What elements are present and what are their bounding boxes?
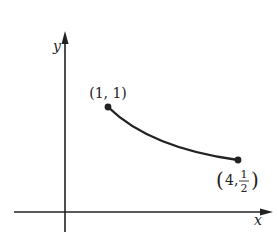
point-end-frac-den: 2 xyxy=(241,182,248,195)
point-end-x-value: 4, xyxy=(225,172,238,188)
point-end-open-paren: ( xyxy=(216,168,224,192)
point-end-label: ( 4, 1 2 ) xyxy=(216,168,259,195)
point-end-frac-num: 1 xyxy=(241,168,248,181)
y-axis-label: y xyxy=(52,38,62,54)
graph-svg: y x (1, 1) ( 4, 1 2 ) xyxy=(0,0,278,241)
point-start xyxy=(105,104,112,111)
point-end xyxy=(235,157,242,164)
curve xyxy=(108,107,238,160)
diagram-canvas: y x (1, 1) ( 4, 1 2 ) xyxy=(0,0,278,241)
point-start-label: (1, 1) xyxy=(89,85,127,101)
point-end-close-paren: ) xyxy=(251,168,259,192)
x-axis-arrow-icon xyxy=(260,209,273,216)
y-axis-arrow-icon xyxy=(62,31,69,44)
x-axis-label: x xyxy=(254,212,262,228)
